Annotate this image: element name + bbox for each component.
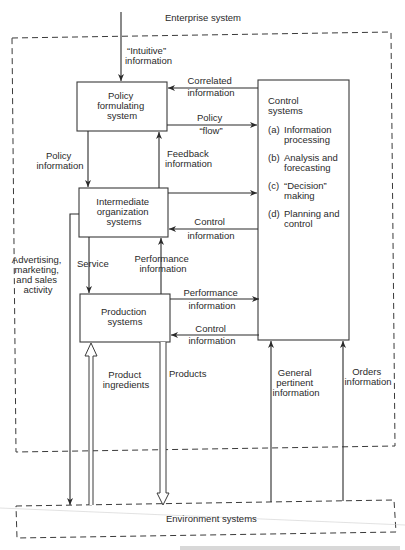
general-pertinent-information-label: General pertinent information bbox=[273, 367, 320, 398]
enterprise-system-title: Enterprise system bbox=[165, 12, 241, 23]
control-information-2-label: Control information bbox=[189, 323, 236, 346]
orders-information-label: Orders information bbox=[345, 366, 392, 387]
production-systems-label: Production systems bbox=[101, 306, 149, 327]
products-hollow-arrow bbox=[157, 342, 169, 505]
product-ingredients-label: Product ingredients bbox=[103, 369, 150, 390]
environment-systems-label: Environment systems bbox=[166, 513, 257, 524]
control-systems-title: Control systems bbox=[268, 95, 303, 116]
advertising-activity-label: Advertising, marketing, and sales activi… bbox=[12, 254, 64, 295]
enterprise-system-diagram: Enterprise system Environment systems “I… bbox=[0, 0, 405, 550]
performance-information-1-label: Performance information bbox=[134, 253, 191, 274]
products-label: Products bbox=[169, 368, 207, 379]
cropped-caption-fragment bbox=[180, 546, 400, 550]
correlated-information-label: Correlated information bbox=[188, 75, 235, 98]
service-label: Service bbox=[77, 258, 109, 269]
feedback-information-label: Feedback information bbox=[165, 148, 212, 169]
product-ingredients-hollow-arrow bbox=[85, 343, 97, 505]
intuitive-information-label: “Intuitive”information bbox=[125, 45, 172, 66]
policy-information-label: Policy information bbox=[37, 150, 84, 171]
policy-flow-label: Policy “flow” bbox=[197, 112, 225, 136]
